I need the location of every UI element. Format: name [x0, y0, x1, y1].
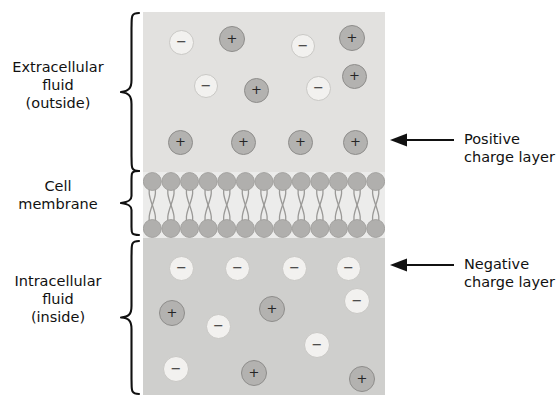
ion-charge-glyph: +: [167, 306, 178, 319]
ion-charge-glyph: −: [343, 261, 354, 274]
ion-charge-glyph: −: [312, 338, 323, 351]
ion-charge-glyph: +: [251, 83, 262, 96]
ion-group-intracellular: −−−−+−+−−−++: [143, 238, 385, 395]
callout-label: Positive charge layer: [464, 130, 555, 166]
negative-ion: −: [282, 256, 307, 281]
ion-charge-glyph: −: [289, 261, 300, 274]
positive-ion: +: [288, 130, 313, 155]
ion-charge-glyph: −: [176, 35, 187, 48]
label-line: (inside): [2, 308, 114, 326]
left-arrow-icon: [390, 253, 456, 277]
brace-extracellular: [118, 12, 142, 172]
label-intracellular-fluid: Intracellular fluid (inside): [2, 272, 114, 326]
ion-charge-glyph: −: [176, 261, 187, 274]
ion-charge-glyph: −: [313, 81, 324, 94]
left-arrow-icon: [390, 128, 456, 152]
negative-ion: −: [225, 256, 250, 281]
negative-ion: −: [169, 256, 194, 281]
ion-charge-glyph: +: [227, 32, 238, 45]
negative-ion: −: [291, 34, 315, 58]
ion-charge-glyph: −: [213, 319, 224, 332]
positive-ion: +: [168, 130, 193, 155]
positive-ion: +: [244, 78, 269, 103]
ion-charge-glyph: +: [267, 302, 278, 315]
ion-charge-glyph: +: [249, 366, 260, 379]
callout-line: Positive: [464, 130, 555, 148]
ion-charge-glyph: −: [201, 79, 212, 92]
brace-intracellular: [118, 240, 142, 395]
positive-ion: +: [219, 26, 245, 52]
ion-charge-glyph: −: [232, 261, 243, 274]
diagram-canvas: Extracellular fluid (outside) Cell membr…: [0, 0, 560, 407]
label-line: Intracellular: [2, 272, 114, 290]
ion-charge-glyph: −: [352, 294, 363, 307]
callout-label: Negative charge layer: [464, 255, 555, 291]
ion-charge-glyph: +: [357, 372, 368, 385]
label-line: (outside): [2, 94, 114, 112]
ion-charge-glyph: +: [347, 31, 358, 44]
label-cell-membrane: Cell membrane: [2, 177, 114, 213]
negative-ion: −: [306, 76, 331, 101]
positive-ion: +: [259, 296, 285, 322]
label-extracellular-fluid: Extracellular fluid (outside): [2, 58, 114, 112]
ion-charge-glyph: +: [349, 69, 360, 82]
callout-line: Negative: [464, 255, 555, 273]
negative-ion: −: [344, 288, 370, 314]
label-line: Extracellular: [2, 58, 114, 76]
negative-ion: −: [206, 314, 231, 339]
positive-ion: +: [159, 300, 185, 326]
negative-ion: −: [336, 256, 361, 281]
ion-charge-glyph: +: [295, 135, 306, 148]
label-line: membrane: [2, 195, 114, 213]
positive-ion: +: [241, 360, 267, 386]
ion-charge-glyph: +: [238, 135, 249, 148]
ion-group-extracellular: −+−+−+−+++++: [143, 12, 385, 172]
cell-diagram-panel: −+−+−+−+++++ −−−−+−+−−−++: [143, 12, 385, 395]
negative-ion: −: [169, 30, 194, 55]
callout-line: charge layer: [464, 273, 555, 291]
label-line: Cell: [2, 177, 114, 195]
positive-ion: +: [342, 64, 367, 89]
negative-ion: −: [194, 74, 218, 98]
positive-ion: +: [349, 366, 375, 392]
lipid-bilayer: [143, 172, 385, 238]
negative-ion: −: [304, 332, 330, 358]
ion-charge-glyph: −: [298, 39, 309, 52]
ion-charge-glyph: +: [175, 135, 186, 148]
positive-ion: +: [231, 130, 256, 155]
label-line: fluid: [2, 290, 114, 308]
ion-charge-glyph: −: [171, 362, 182, 375]
callout-line: charge layer: [464, 148, 555, 166]
ion-charge-glyph: +: [350, 135, 361, 148]
brace-cell-membrane: [118, 170, 142, 236]
negative-ion: −: [163, 356, 189, 382]
positive-ion: +: [343, 130, 368, 155]
label-line: fluid: [2, 76, 114, 94]
positive-ion: +: [339, 25, 365, 51]
